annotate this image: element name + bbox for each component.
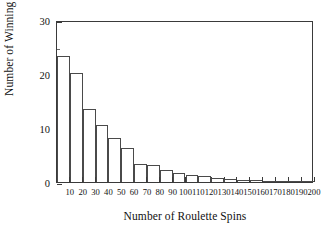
bar-90 — [160, 170, 173, 182]
bar-30 — [83, 109, 96, 182]
bar-50 — [108, 138, 121, 182]
bar-140 — [224, 179, 237, 182]
bar-100 — [173, 173, 186, 182]
histogram-figure: Number of Winning Players 01020301020304… — [0, 0, 334, 235]
x-axis-title: Number of Roulette Spins — [56, 210, 314, 222]
y-tick-label-10: 10 — [10, 125, 50, 135]
bar-70 — [134, 164, 147, 182]
x-tick-label-200: 200 — [299, 187, 329, 197]
y-tick-30 — [57, 22, 62, 23]
bar-20 — [70, 73, 83, 182]
y-tick-0 — [57, 184, 62, 185]
bar-180 — [275, 181, 288, 182]
y-tick-label-30: 30 — [10, 17, 50, 27]
y-minor-tick-25 — [57, 49, 60, 50]
y-tick-label-20: 20 — [10, 71, 50, 81]
bar-80 — [147, 165, 160, 182]
bar-170 — [263, 181, 276, 182]
bar-120 — [198, 176, 211, 182]
bar-40 — [96, 125, 109, 182]
x-tick-200 — [314, 177, 315, 182]
bar-130 — [211, 178, 224, 182]
bar-10 — [57, 56, 70, 182]
bar-200 — [301, 181, 314, 182]
plot-area: 0102030102030405060708090100110120130140… — [56, 21, 313, 183]
bar-60 — [121, 148, 134, 182]
bar-160 — [250, 180, 263, 182]
bar-110 — [186, 175, 199, 182]
bar-150 — [237, 180, 250, 182]
y-tick-label-0: 0 — [10, 179, 50, 189]
bar-190 — [288, 181, 301, 182]
